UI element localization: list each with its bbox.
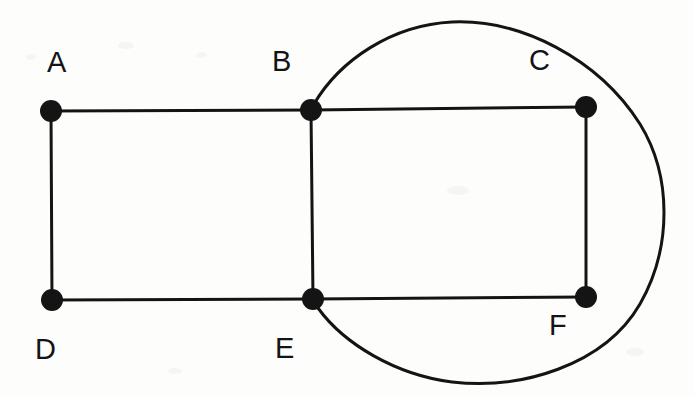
vertex-D[interactable] bbox=[41, 289, 63, 311]
vertex-label-D: D bbox=[35, 335, 56, 364]
vertex-B[interactable] bbox=[300, 99, 322, 121]
edge-D-E bbox=[52, 299, 313, 300]
vertex-A[interactable] bbox=[40, 100, 62, 122]
vertex-F[interactable] bbox=[575, 286, 597, 308]
vertex-C[interactable] bbox=[575, 96, 597, 118]
vertex-label-B: B bbox=[272, 47, 291, 76]
edge-B-E bbox=[311, 110, 313, 299]
edge-B-E-curved bbox=[314, 22, 664, 384]
vertex-label-E: E bbox=[275, 334, 294, 363]
edge-A-B bbox=[51, 110, 311, 111]
graph-figure bbox=[0, 0, 694, 395]
vertex-E[interactable] bbox=[302, 288, 324, 310]
edge-B-C bbox=[311, 107, 586, 110]
vertex-label-A: A bbox=[47, 48, 66, 77]
vertex-group bbox=[40, 96, 597, 311]
vertex-label-F: F bbox=[549, 311, 567, 340]
curved-edge-group bbox=[314, 22, 664, 384]
diagram-canvas: A B C D E F bbox=[0, 0, 694, 395]
edge-A-D bbox=[51, 111, 52, 300]
vertex-label-C: C bbox=[529, 46, 550, 75]
straight-edge-group bbox=[51, 107, 586, 300]
edge-E-F bbox=[313, 297, 586, 299]
